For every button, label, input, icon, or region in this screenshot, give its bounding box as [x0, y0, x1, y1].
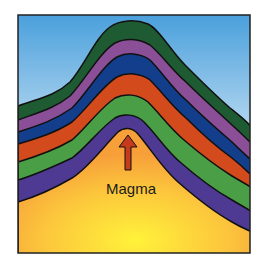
anticline-diagram [0, 0, 266, 275]
magma-label: Magma [106, 180, 156, 197]
